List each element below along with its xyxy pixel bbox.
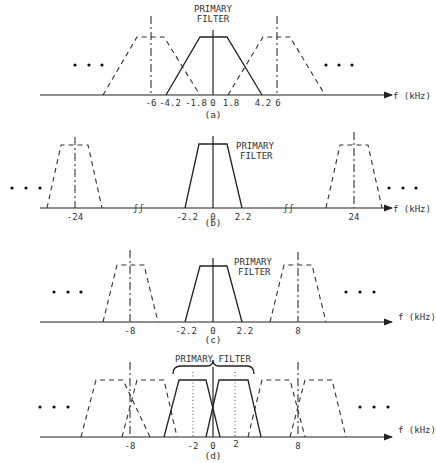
ellipsis-right (358, 405, 389, 408)
axis-break-left: ʃʃ (133, 203, 144, 213)
axis-break-right: ʃʃ (283, 203, 294, 213)
tick-label: -8 (125, 441, 136, 451)
panel-caption: (c) (204, 334, 221, 345)
ellipsis-right (344, 290, 375, 293)
ellipsis-right (324, 63, 353, 66)
tick-label: 0 (210, 98, 215, 108)
tick-label: -4.2 (159, 98, 181, 108)
filter-spectra-figure: PRIMARY FILTER f (kHz) -6 -4.2 -1.8 0 1.… (0, 0, 436, 463)
primary-filter-neg2 (164, 380, 220, 437)
axis-label: f (kHz) (393, 204, 431, 214)
primary-filter-label-line2: FILTER (197, 14, 230, 24)
panel-caption: (a) (204, 109, 221, 120)
image-filter-neg10 (81, 380, 150, 437)
primary-filter (166, 37, 262, 95)
panel-b: f (kHz) ʃʃ ʃʃ PRIMARY FILTER -24 -2.2 0 … (10, 132, 431, 228)
tick-label: -8 (125, 326, 136, 336)
tick-label: -6 (146, 98, 157, 108)
panel-caption: (b) (204, 217, 221, 228)
axis-label: f (kHz) (398, 425, 436, 435)
tick-label: -2.2 (176, 212, 198, 222)
panel-caption: (d) (204, 450, 221, 461)
tick-label: 2.2 (237, 326, 253, 336)
tick-label: 6 (275, 98, 280, 108)
tick-label: 2 (233, 439, 238, 449)
axis-label: f (kHz) (398, 312, 436, 322)
ellipsis-left (52, 290, 82, 293)
tick-label: 2.2 (235, 212, 251, 222)
primary-filter-label-line1: PRIMARY (234, 257, 273, 267)
image-filter-pos6 (248, 380, 305, 437)
tick-label: -2 (188, 441, 199, 451)
tick-label: 8 (295, 441, 300, 451)
tick-label: 1.8 (223, 98, 239, 108)
tick-label: 8 (295, 326, 300, 336)
panel-d: PRIMARY FILTER f (kHz) -8 -2 0 2 8 (d) (38, 354, 436, 461)
primary-filter-label-line2: FILTER (238, 267, 271, 277)
ellipsis-left (73, 63, 103, 66)
tick-label: -24 (67, 212, 83, 222)
tick-label: -1.8 (185, 98, 207, 108)
tick-label: -2.2 (175, 326, 197, 336)
ellipsis-left (10, 186, 41, 189)
tick-label: 4.2 (255, 98, 271, 108)
primary-filter-pos2 (206, 380, 261, 437)
axis-label: f (kHz) (393, 91, 431, 101)
panel-c: f (kHz) PRIMARY FILTER -8 -2.2 0 2.2 8 (… (40, 250, 436, 345)
primary-filter-label-line2: FILTER (240, 151, 273, 161)
ellipsis-right (387, 186, 417, 189)
tick-label: 24 (349, 212, 360, 222)
primary-filter-label-line1: PRIMARY (236, 141, 275, 151)
panel-a: PRIMARY FILTER f (kHz) -6 -4.2 -1.8 0 1.… (40, 4, 431, 120)
primary-filter-label-line1: PRIMARY (194, 4, 233, 14)
ellipsis-left (38, 405, 69, 408)
